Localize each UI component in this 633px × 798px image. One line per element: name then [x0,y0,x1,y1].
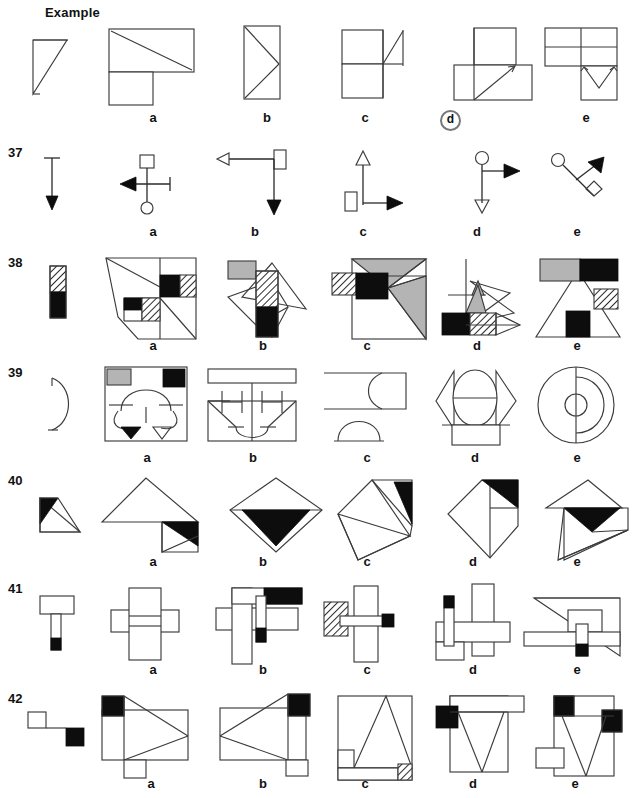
row38-option-a-figure[interactable] [100,255,206,345]
example-label-e: e [571,110,601,125]
row38-label-a: a [138,338,168,353]
row40-label-d: d [458,554,488,569]
row42-option-a-figure[interactable] [96,692,200,784]
row40-label-b: b [248,554,278,569]
item-number-40: 40 [8,473,22,488]
row40-option-e-figure[interactable] [540,474,633,566]
item-row-40: 40 [0,470,626,578]
row41-option-a-figure[interactable] [95,584,195,668]
row40-option-c-figure[interactable] [332,474,442,566]
row38-option-b-figure[interactable] [226,257,322,345]
row39-label-b: b [238,450,268,465]
row42-option-d-figure[interactable] [434,692,530,784]
row42-option-e-figure[interactable] [534,692,630,786]
row41-label-d: d [458,662,488,677]
row38-option-c-figure[interactable] [328,255,434,345]
example-option-d-figure[interactable] [452,26,538,104]
row37-option-b-figure[interactable] [212,148,298,220]
row39-label-d: d [460,450,490,465]
row41-option-d-figure[interactable] [430,582,530,670]
row39-option-a-figure[interactable] [103,365,193,449]
row40-option-d-figure[interactable] [440,474,542,564]
row41-prompt-figure [32,592,88,664]
item-row-41: 41 [0,578,626,686]
row42-label-d: d [458,776,488,791]
item-number-39: 39 [8,365,22,380]
row41-option-b-figure[interactable] [208,584,318,668]
row41-option-c-figure[interactable] [320,584,416,668]
example-prompt-figure [30,28,102,98]
row37-option-c-figure[interactable] [335,148,411,216]
row40-option-b-figure[interactable] [224,474,334,560]
item-number-37: 37 [8,145,22,160]
row41-option-e-figure[interactable] [520,584,626,668]
example-label-c: c [350,110,380,125]
row41-label-c: c [352,662,382,677]
row37-prompt-figure [38,152,78,214]
row39-option-e-figure[interactable] [530,365,624,449]
item-row-38: 38 [0,252,626,362]
row39-label-e: e [562,450,592,465]
example-option-b-figure[interactable] [242,24,294,104]
row42-option-b-figure[interactable] [216,692,320,784]
row42-option-c-figure[interactable] [332,692,428,788]
row40-label-e: e [562,554,592,569]
row37-label-a: a [138,224,168,239]
row41-label-b: b [248,662,278,677]
item-row-39: 39 [0,362,626,472]
row42-label-c: c [350,776,380,791]
row39-option-b-figure[interactable] [206,365,300,449]
row39-label-c: c [352,450,382,465]
example-option-a-figure[interactable] [108,27,206,107]
example-label-b: b [252,110,282,125]
row39-option-c-figure[interactable] [320,365,416,449]
row38-option-e-figure[interactable] [528,255,626,345]
row38-label-e: e [562,338,592,353]
example-label-a: a [138,110,168,125]
row40-label-a: a [138,554,168,569]
row42-label-e: e [560,776,590,791]
item-number-41: 41 [8,581,22,596]
row40-option-a-figure[interactable] [98,474,218,560]
row38-label-c: c [352,338,382,353]
row39-option-d-figure[interactable] [428,365,522,449]
row37-label-d: d [462,224,492,239]
row40-label-c: c [352,554,382,569]
item-number-38: 38 [8,255,22,270]
row42-label-a: a [136,776,166,791]
row38-label-b: b [248,338,278,353]
example-option-c-figure[interactable] [341,28,413,106]
row42-prompt-figure [24,708,94,764]
row38-prompt-figure [44,264,78,330]
row37-label-b: b [240,224,270,239]
item-row-37: 37 [0,140,626,250]
row39-label-a: a [132,450,162,465]
row39-prompt-figure [42,374,82,440]
item-number-42: 42 [8,691,22,706]
row37-option-a-figure[interactable] [112,152,192,220]
row41-label-a: a [138,662,168,677]
example-row: a b c d e [0,0,626,135]
row37-option-e-figure[interactable] [546,148,622,216]
item-row-42: 42 [0,688,626,798]
row37-label-c: c [348,224,378,239]
row38-option-d-figure[interactable] [440,255,530,345]
example-label-d-circled[interactable]: d [440,110,461,131]
row41-label-e: e [562,662,592,677]
row37-label-e: e [562,224,592,239]
row38-label-d: d [462,338,492,353]
row37-option-d-figure[interactable] [452,148,528,216]
row40-prompt-figure [32,490,88,540]
example-option-e-figure[interactable] [543,26,623,104]
row42-label-b: b [248,776,278,791]
